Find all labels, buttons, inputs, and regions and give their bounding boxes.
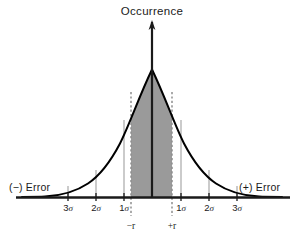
positive-error-axis-label: (+) Error	[239, 182, 280, 193]
marker-label-pos-r: +r	[168, 222, 177, 232]
tick-label-neg-1-sigma: 1σ	[119, 203, 129, 213]
error-distribution-figure: Occurrence (−) Error (+) Error 3σ 2σ 1σ …	[0, 0, 306, 243]
page-title: Occurrence	[121, 6, 183, 18]
negative-error-axis-label: (−) Error	[9, 182, 50, 193]
tick-label-neg-3-sigma: 3σ	[63, 203, 73, 213]
tick-label-pos-3-sigma: 3σ	[232, 203, 242, 213]
tick-label-pos-2-sigma: 2σ	[204, 203, 214, 213]
gaussian-curve-plot	[0, 0, 306, 243]
marker-label-neg-r: −r	[127, 222, 136, 232]
tick-label-pos-1-sigma: 1σ	[176, 203, 186, 213]
tick-label-neg-2-sigma: 2σ	[91, 203, 101, 213]
